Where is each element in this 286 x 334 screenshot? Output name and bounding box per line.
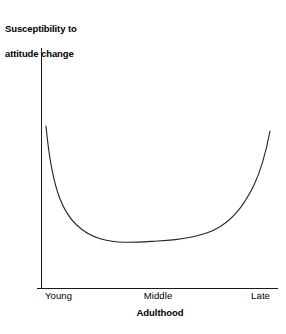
susceptibility-curve [46,126,270,242]
x-tick-label-middle: Middle [144,290,173,301]
x-tick-label-young: Young [45,290,72,301]
plot-area [0,0,286,334]
chart-figure: Susceptibility to attitude change Young … [0,0,286,334]
x-tick-label-late: Late [251,290,270,301]
x-axis-title: Adulthood [136,307,183,318]
